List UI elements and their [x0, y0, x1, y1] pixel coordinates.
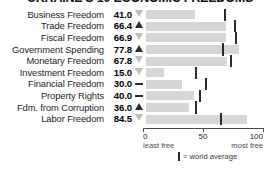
trend-up-icon — [135, 21, 143, 28]
world-average-tick — [235, 32, 237, 44]
row-value: 36.0 — [108, 103, 132, 113]
trend-down-icon — [135, 56, 143, 63]
row-trend — [132, 21, 146, 31]
row-plot — [146, 55, 279, 67]
row-label: Financial Freedom — [0, 79, 108, 89]
axis-tick — [263, 128, 264, 132]
row-label: Labor Freedom — [0, 114, 108, 124]
row-value: 66.4 — [108, 21, 132, 31]
world-average-tick — [205, 78, 207, 90]
row-value: 84.5 — [108, 114, 132, 124]
table-row: Financial Freedom30.0 — [0, 79, 279, 91]
world-average-tick — [220, 113, 222, 125]
world-average-tick — [230, 55, 232, 67]
row-plot — [146, 44, 279, 56]
trend-up-icon — [135, 103, 143, 110]
value-bar — [146, 80, 182, 89]
row-plot — [146, 90, 279, 102]
legend: = world average — [178, 152, 237, 161]
row-plot — [146, 21, 279, 33]
world-average-tick — [234, 20, 236, 32]
row-trend — [132, 103, 146, 113]
table-row: Investment Freedom15.0 — [0, 67, 279, 79]
row-value: 67.8 — [108, 56, 132, 66]
trend-flat-icon — [135, 95, 143, 97]
world-average-tick — [224, 9, 226, 21]
value-bar — [146, 91, 194, 100]
row-value: 41.0 — [108, 10, 132, 20]
row-trend — [132, 79, 146, 89]
row-label: Monetary Freedom — [0, 56, 108, 66]
value-bar — [146, 45, 239, 54]
value-bar — [146, 22, 226, 31]
row-trend — [132, 10, 146, 20]
row-trend — [132, 56, 146, 66]
row-label: Investment Freedom — [0, 68, 108, 78]
value-bar — [146, 115, 247, 124]
row-value: 15.0 — [108, 68, 132, 78]
world-average-tick — [195, 101, 197, 113]
row-plot — [146, 32, 279, 44]
world-average-tick — [195, 67, 197, 79]
axis-tick-label: 0 — [143, 132, 147, 141]
row-value: 77.8 — [108, 45, 132, 55]
table-row: Trade Freedom66.4 — [0, 21, 279, 33]
table-row: Business Freedom41.0 — [0, 9, 279, 21]
row-label: Fiscal Freedom — [0, 33, 108, 43]
value-bar — [146, 103, 189, 112]
row-value: 30.0 — [108, 79, 132, 89]
row-plot — [146, 79, 279, 91]
table-row: Fiscal Freedom66.9 — [0, 32, 279, 44]
trend-down-icon — [135, 33, 143, 40]
economic-freedoms-chart: UKRAINE'S 10 ECONOMIC FREEDOMS Business … — [0, 0, 279, 171]
trend-flat-icon — [135, 83, 143, 85]
table-row: Monetary Freedom67.8 — [0, 55, 279, 67]
row-label: Trade Freedom — [0, 21, 108, 31]
value-bar — [146, 10, 195, 19]
page-title: UKRAINE'S 10 ECONOMIC FREEDOMS — [8, 0, 272, 5]
value-bar — [146, 33, 226, 42]
table-row: Fdm. from Corruption36.0 — [0, 102, 279, 114]
world-average-marker-icon — [178, 152, 180, 161]
table-row: Government Spending77.8 — [0, 44, 279, 56]
table-row: Labor Freedom84.5 — [0, 113, 279, 125]
bar-rows: Business Freedom41.0Trade Freedom66.4Fis… — [0, 9, 279, 125]
value-bar — [146, 57, 227, 66]
trend-up-icon — [135, 45, 143, 52]
trend-down-icon — [135, 114, 143, 121]
row-value: 66.9 — [108, 33, 132, 43]
axis-sublabel: most free — [231, 141, 263, 150]
row-trend — [132, 114, 146, 124]
axis-tick-label: 50 — [199, 132, 208, 141]
row-label: Business Freedom — [0, 10, 108, 20]
row-plot — [146, 102, 279, 114]
row-trend — [132, 45, 146, 55]
row-label: Government Spending — [0, 45, 108, 55]
trend-down-icon — [135, 10, 143, 17]
table-row: Property Rights40.0 — [0, 90, 279, 102]
row-plot — [146, 113, 279, 125]
value-bar — [146, 68, 164, 77]
row-label: Fdm. from Corruption — [0, 103, 108, 113]
axis-sublabel: least free — [143, 141, 174, 150]
row-trend — [132, 33, 146, 43]
row-plot — [146, 9, 279, 21]
row-plot — [146, 67, 279, 79]
axis-tick-label: 100 — [250, 132, 263, 141]
row-trend — [132, 91, 146, 101]
trend-down-icon — [135, 68, 143, 75]
legend-label: = world average — [183, 152, 237, 161]
row-trend — [132, 68, 146, 78]
world-average-tick — [199, 90, 201, 102]
row-value: 40.0 — [108, 91, 132, 101]
row-label: Property Rights — [0, 91, 108, 101]
world-average-tick — [222, 43, 224, 55]
